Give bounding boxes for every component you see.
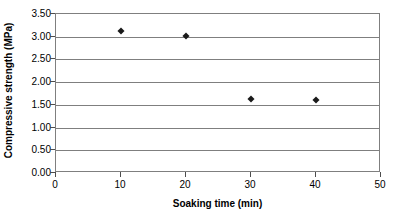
y-axis-title-text: Compressive strength (MPa) bbox=[4, 22, 15, 158]
x-axis-tick-label: 10 bbox=[114, 179, 125, 190]
y-axis-tick-mark bbox=[50, 81, 55, 82]
y-axis-tick-label: 2.50 bbox=[32, 53, 51, 64]
y-axis-tick-label: 1.00 bbox=[32, 121, 51, 132]
data-point bbox=[117, 27, 124, 34]
gridline bbox=[56, 82, 379, 83]
y-axis-tick-mark bbox=[50, 13, 55, 14]
y-axis-tick-label: 0.00 bbox=[32, 167, 51, 178]
x-axis-title: Soaking time (min) bbox=[55, 198, 380, 209]
data-point bbox=[182, 33, 189, 40]
y-axis-tick-mark bbox=[50, 58, 55, 59]
y-axis-tick-label: 3.50 bbox=[32, 8, 51, 19]
x-axis-tick-label: 30 bbox=[244, 179, 255, 190]
plot-area bbox=[55, 13, 380, 172]
x-axis-tick-mark bbox=[55, 172, 56, 177]
x-axis-tick-mark bbox=[380, 172, 381, 177]
y-axis-tick-label: 1.50 bbox=[32, 98, 51, 109]
y-axis-tick-label: 0.50 bbox=[32, 144, 51, 155]
y-axis-tick-label: 3.00 bbox=[32, 30, 51, 41]
y-axis-tick-mark bbox=[50, 149, 55, 150]
gridline bbox=[56, 59, 379, 60]
chart-figure: Compressive strength (MPa) 0.000.501.001… bbox=[0, 0, 393, 220]
data-point bbox=[312, 96, 319, 103]
x-axis-tick-label: 0 bbox=[52, 179, 58, 190]
x-axis-tick-mark bbox=[120, 172, 121, 177]
x-axis-tick-label: 50 bbox=[374, 179, 385, 190]
y-axis-tick-labels: 0.000.501.001.502.002.503.003.50 bbox=[18, 0, 54, 220]
x-axis-tick-mark bbox=[185, 172, 186, 177]
x-axis-tick-mark bbox=[315, 172, 316, 177]
data-point bbox=[247, 96, 254, 103]
y-axis-tick-label: 2.00 bbox=[32, 76, 51, 87]
y-axis-tick-mark bbox=[50, 127, 55, 128]
x-axis-tick-mark bbox=[250, 172, 251, 177]
gridline bbox=[56, 37, 379, 38]
x-axis-tick-label: 20 bbox=[179, 179, 190, 190]
y-axis-tick-mark bbox=[50, 36, 55, 37]
gridline bbox=[56, 128, 379, 129]
y-axis-tick-mark bbox=[50, 104, 55, 105]
gridline bbox=[56, 150, 379, 151]
gridline bbox=[56, 105, 379, 106]
y-axis-title: Compressive strength (MPa) bbox=[0, 0, 18, 180]
x-axis-tick-label: 40 bbox=[309, 179, 320, 190]
